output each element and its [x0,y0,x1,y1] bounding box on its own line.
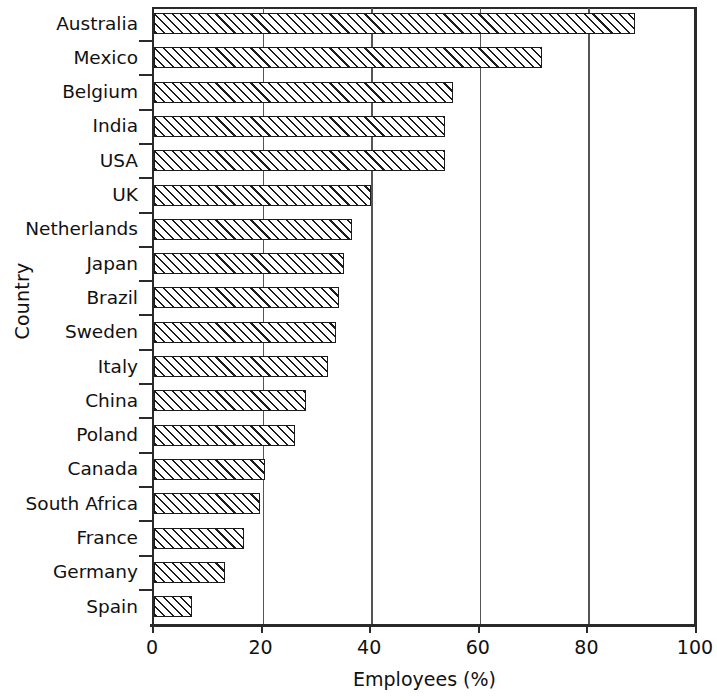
bar [154,47,542,68]
y-axis-tick [139,246,152,248]
bar [154,596,192,617]
bar [154,287,339,308]
y-axis-tick [139,212,152,214]
bar [154,116,445,137]
y-axis-tick-label: Canada [0,459,138,479]
y-axis-tick [139,109,152,111]
y-axis-tick-label: Brazil [0,288,138,308]
x-axis-tick [586,624,588,633]
bar [154,253,344,274]
bar [154,322,336,343]
y-axis-tick-label: China [0,391,138,411]
bar [154,425,295,446]
bar [154,219,352,240]
x-axis-line [150,624,697,627]
y-axis-tick [139,74,152,76]
y-axis-tick [139,177,152,179]
y-axis-tick [139,143,152,145]
y-axis-tick [139,417,152,419]
y-axis-category-labels: AustraliaMexicoBelgiumIndiaUSAUKNetherla… [0,8,145,625]
bar [154,356,328,377]
bar [154,82,453,103]
gridline [588,8,590,625]
bar [154,150,445,171]
bar [154,528,244,549]
y-axis-tick-label: Australia [0,14,138,34]
x-axis-title: Employees (%) [152,668,697,690]
bar [154,493,260,514]
y-axis-tick-label: USA [0,151,138,171]
y-axis-tick [139,40,152,42]
bar [154,13,635,34]
y-axis-tick-label: Germany [0,562,138,582]
y-axis-tick-label: Spain [0,597,138,617]
gridline [480,8,482,625]
y-axis-tick [139,280,152,282]
x-axis-tick [261,624,263,633]
y-axis-tick [139,589,152,591]
y-axis-tick-label: Belgium [0,82,138,102]
x-axis-tick [152,624,154,633]
y-axis-tick [139,555,152,557]
x-axis-tick [369,624,371,633]
y-axis-tick-label: Mexico [0,48,138,68]
y-axis-tick [139,314,152,316]
y-axis-tick-label: UK [0,185,138,205]
x-axis-tick-label: 40 [329,636,409,658]
x-axis-tick-label: 80 [546,636,626,658]
x-axis-tick-label: 60 [438,636,518,658]
bar-chart: Country AustraliaMexicoBelgiumIndiaUSAUK… [0,0,717,700]
x-axis-tick-label: 20 [221,636,301,658]
x-axis-tick [478,624,480,633]
y-axis-tick-label: Japan [0,254,138,274]
plot-area [152,8,697,625]
x-axis-tick-label: 0 [112,636,192,658]
y-axis-tick [139,486,152,488]
y-axis-tick-label: Poland [0,425,138,445]
y-axis-tick [139,452,152,454]
bar [154,562,225,583]
y-axis-tick [139,520,152,522]
y-axis-tick-label: Italy [0,357,138,377]
y-axis-tick-label: France [0,528,138,548]
bar [154,185,371,206]
x-axis-tick-label: 100 [655,636,717,658]
bar [154,459,265,480]
x-axis-tick [695,624,697,633]
y-axis-tick [139,349,152,351]
y-axis-tick [139,383,152,385]
y-axis-tick-label: Sweden [0,322,138,342]
y-axis-tick-label: India [0,116,138,136]
y-axis-tick-label: South Africa [0,494,138,514]
bar [154,390,306,411]
y-axis-tick-label: Netherlands [0,219,138,239]
